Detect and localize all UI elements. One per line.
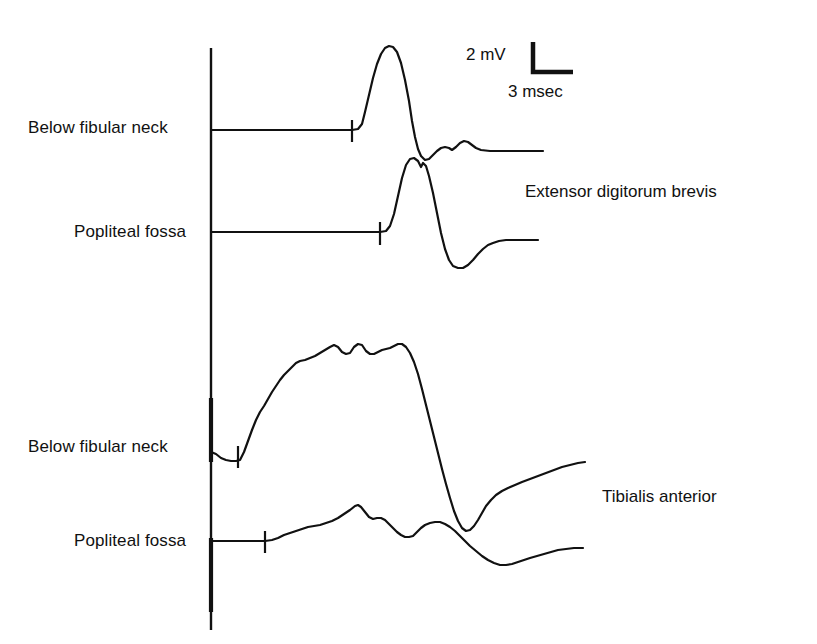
muscle-label: Tibialis anterior <box>602 487 717 506</box>
waveform-trace <box>211 158 538 268</box>
stimulation-site-label: Popliteal fossa <box>74 531 186 550</box>
scale-bar-amplitude-label: 2 mV <box>466 45 506 64</box>
waveform-trace <box>211 344 585 531</box>
stimulation-site-label: Below fibular neck <box>28 437 168 456</box>
trace-group <box>211 46 585 565</box>
scale-bar <box>533 42 573 72</box>
waveform-trace <box>211 505 583 565</box>
stimulation-site-label: Popliteal fossa <box>74 222 186 241</box>
muscle-label: Extensor digitorum brevis <box>525 182 717 201</box>
scale-bar-group <box>533 42 573 72</box>
scale-bar-time-label: 3 msec <box>508 82 563 101</box>
stimulation-site-label: Below fibular neck <box>28 118 168 137</box>
emg-figure: Below fibular neckPopliteal fossaBelow f… <box>0 0 817 644</box>
